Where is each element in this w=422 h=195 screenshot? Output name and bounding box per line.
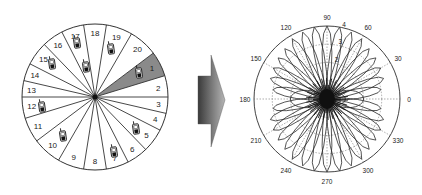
angle-label-120: 120 <box>281 24 292 31</box>
sectored-cell-diagram: 2120191817161514131211109876543 <box>22 24 168 170</box>
transform-arrow-icon <box>198 55 225 147</box>
sector-label: 11 <box>34 122 43 131</box>
sector-label: 2 <box>156 84 161 93</box>
angle-label-300: 300 <box>363 167 374 174</box>
sector-label: 9 <box>71 153 76 162</box>
sector-label: 19 <box>112 33 121 42</box>
sector-label: 16 <box>53 41 62 50</box>
sector-label: 18 <box>91 29 100 38</box>
angle-label-90: 90 <box>323 14 331 21</box>
angle-label-270: 270 <box>322 178 333 185</box>
angle-label-180: 180 <box>240 96 251 103</box>
sector-label: 8 <box>93 157 98 166</box>
sector-label: 20 <box>133 45 142 54</box>
figure: 2120191817161514131211109876543 03060901… <box>0 0 422 195</box>
sector-label: 6 <box>130 145 135 154</box>
angle-label-150: 150 <box>251 55 262 62</box>
sector-label: 12 <box>27 102 36 111</box>
sector-label: 13 <box>27 86 36 95</box>
angle-label-210: 210 <box>251 137 262 144</box>
sector-label: 4 <box>153 115 158 124</box>
ring-label-3: 3 <box>339 38 343 45</box>
sector-label: 10 <box>48 141 57 150</box>
angle-label-0: 0 <box>407 96 411 103</box>
angle-label-240: 240 <box>281 167 292 174</box>
ring-label-4: 4 <box>342 21 346 28</box>
ring-label-2: 2 <box>335 56 339 63</box>
sector-label: 15 <box>39 55 48 64</box>
angle-label-60: 60 <box>364 24 372 31</box>
sector-label: 1 <box>150 64 155 73</box>
polar-beam-pattern: 0306090120150180210240270300330 234 <box>240 14 412 185</box>
base-station-icon <box>93 95 98 100</box>
angle-label-330: 330 <box>393 137 404 144</box>
sector-label: 14 <box>30 71 39 80</box>
angle-label-30: 30 <box>394 55 402 62</box>
sector-label: 3 <box>156 100 161 109</box>
sector-label: 5 <box>144 131 149 140</box>
